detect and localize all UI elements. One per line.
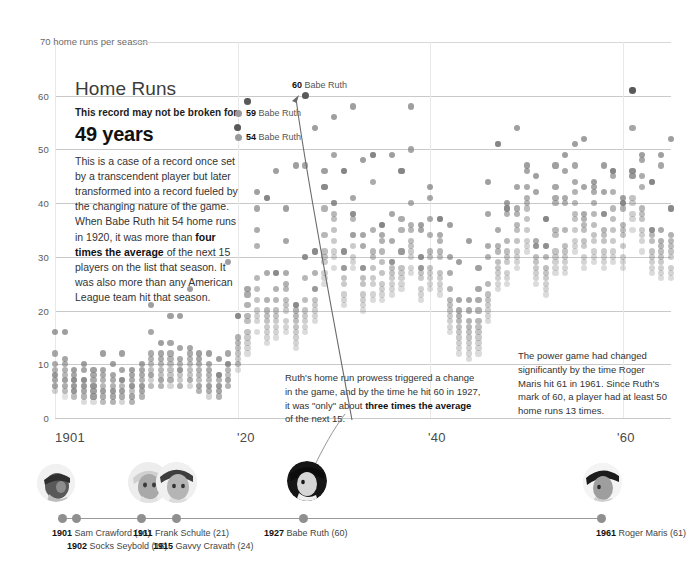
data-point — [466, 297, 472, 303]
data-point — [187, 383, 193, 389]
data-point — [639, 184, 645, 190]
data-point — [601, 238, 607, 244]
callout-59-value: 59 — [246, 108, 256, 118]
data-point — [437, 238, 443, 244]
data-point — [524, 216, 530, 222]
data-point — [370, 281, 376, 287]
data-point — [370, 179, 376, 185]
data-point — [167, 340, 173, 346]
data-point — [264, 340, 270, 346]
data-point — [81, 367, 87, 373]
data-point — [216, 393, 222, 399]
data-point — [244, 318, 250, 324]
data-point — [572, 189, 578, 195]
data-point — [591, 200, 597, 206]
data-point — [398, 248, 404, 254]
data-point — [620, 205, 626, 211]
data-point — [649, 238, 655, 244]
data-point — [283, 286, 289, 292]
data-point — [398, 286, 404, 292]
data-point — [552, 270, 558, 276]
data-point — [331, 265, 337, 271]
data-point — [389, 238, 395, 244]
data-point — [562, 270, 568, 276]
data-point — [370, 297, 376, 303]
timeline-label-1911: 1911 Frank Schulte (21) — [133, 528, 229, 538]
data-point — [331, 254, 337, 260]
data-point — [331, 200, 337, 206]
data-point — [273, 168, 279, 174]
data-point — [466, 356, 472, 362]
data-point — [456, 350, 462, 356]
data-point — [427, 216, 433, 222]
data-point — [225, 383, 231, 389]
annotation-ruth: Ruth's home run prowess triggered a chan… — [285, 371, 481, 426]
x-tick-1920: '20 — [237, 430, 255, 445]
data-point — [341, 265, 347, 271]
timeline-dot[interactable] — [597, 514, 606, 523]
data-point — [129, 399, 135, 405]
timeline-dot[interactable] — [72, 514, 81, 523]
data-point — [302, 297, 308, 303]
data-point — [591, 189, 597, 195]
timeline-year: 1911 — [133, 528, 153, 538]
data-point — [447, 286, 453, 292]
data-point — [514, 184, 520, 190]
data-point — [360, 307, 366, 313]
timeline-dot[interactable] — [172, 514, 181, 523]
data-point — [601, 162, 607, 168]
data-point — [379, 270, 385, 276]
data-point — [177, 313, 183, 319]
data-point — [235, 313, 241, 319]
data-point — [543, 254, 549, 260]
data-point — [524, 205, 530, 211]
story-paragraph-1: This is a case of a record once set by a… — [75, 154, 240, 215]
timeline-dot[interactable] — [299, 514, 308, 523]
data-point — [562, 152, 568, 158]
data-point — [244, 302, 250, 308]
data-point — [504, 238, 510, 244]
data-point — [495, 248, 501, 254]
data-point — [52, 388, 58, 394]
data-point — [81, 399, 87, 405]
data-point — [475, 297, 481, 303]
data-point — [321, 259, 327, 265]
data-point — [331, 152, 337, 158]
data-point — [533, 281, 539, 287]
data-point — [485, 281, 491, 287]
data-point — [350, 103, 356, 109]
data-point — [273, 297, 279, 303]
callout-60-value: 60 — [292, 80, 302, 90]
data-point — [216, 356, 222, 362]
data-point — [341, 302, 347, 308]
data-point — [370, 265, 376, 271]
story-paragraph-2: When Babe Ruth hit 54 home runs in 1920,… — [75, 214, 240, 305]
timeline-dot[interactable] — [58, 514, 67, 523]
data-point — [350, 216, 356, 222]
data-point — [302, 275, 308, 281]
record-data-point — [244, 98, 251, 105]
data-point — [321, 205, 327, 211]
data-point — [254, 243, 260, 249]
data-point — [495, 141, 501, 147]
data-point — [389, 291, 395, 297]
data-point — [225, 350, 231, 356]
data-point — [119, 350, 125, 356]
data-point — [485, 243, 491, 249]
data-point — [572, 200, 578, 206]
data-point — [264, 270, 270, 276]
data-point — [581, 136, 587, 142]
data-point — [629, 227, 635, 233]
data-point — [167, 313, 173, 319]
callout-54-value: 54 — [246, 132, 256, 142]
data-point — [158, 383, 164, 389]
photo-roger-maris — [583, 463, 622, 502]
timeline-year: 1902 — [67, 541, 87, 551]
data-point — [119, 367, 125, 373]
y-tick-10: 10 — [38, 359, 49, 370]
timeline-dot[interactable] — [137, 514, 146, 523]
data-point — [504, 211, 510, 217]
data-point — [543, 243, 549, 249]
data-point — [62, 393, 68, 399]
